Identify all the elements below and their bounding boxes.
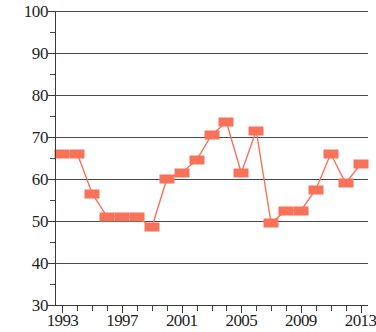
y-axis-tick-label: 70 xyxy=(4,129,48,146)
x-axis-tick-minor xyxy=(212,306,213,311)
data-point-marker xyxy=(264,219,279,228)
data-point-marker xyxy=(353,160,368,169)
y-axis-tick-label: 40 xyxy=(4,255,48,272)
data-point-marker xyxy=(129,212,144,221)
y-axis-tick-label: 80 xyxy=(4,87,48,104)
y-axis xyxy=(55,11,56,305)
x-axis-tick-minor xyxy=(331,306,332,311)
data-point-marker xyxy=(70,149,85,158)
data-point-marker xyxy=(308,185,323,194)
x-axis-tick-label: 2001 xyxy=(166,312,198,329)
x-axis-tick-label: 2005 xyxy=(225,312,257,329)
data-point-marker xyxy=(115,212,130,221)
x-axis-tick-label: 1993 xyxy=(47,312,79,329)
y-axis-tick-label: 100 xyxy=(4,3,48,20)
data-point-marker xyxy=(293,206,308,215)
plot-area xyxy=(55,11,368,305)
data-point-marker xyxy=(100,212,115,221)
y-axis-tick-label: 60 xyxy=(4,171,48,188)
y-axis-tick-label: 50 xyxy=(4,213,48,230)
x-axis-tick-label: 1997 xyxy=(106,312,138,329)
x-axis-tick-label: 2013 xyxy=(345,312,376,329)
data-point-marker xyxy=(234,168,249,177)
data-point-marker xyxy=(338,179,353,188)
y-axis-tick-label: 90 xyxy=(4,45,48,62)
data-point-marker xyxy=(204,130,219,139)
x-axis-tick-label: 2009 xyxy=(285,312,317,329)
x-axis-tick-minor xyxy=(152,306,153,311)
data-point-marker xyxy=(323,149,338,158)
data-point-marker xyxy=(189,156,204,165)
data-point-marker xyxy=(174,168,189,177)
y-axis-tick-label: 30 xyxy=(4,297,48,314)
data-point-marker xyxy=(85,189,100,198)
data-point-marker xyxy=(249,126,264,135)
x-axis-tick-minor xyxy=(92,306,93,311)
data-point-marker xyxy=(219,118,234,127)
series-line xyxy=(55,11,368,305)
data-point-marker xyxy=(144,223,159,232)
data-point-marker xyxy=(279,206,294,215)
data-point-marker xyxy=(55,149,70,158)
x-axis-tick-minor xyxy=(271,306,272,311)
data-point-marker xyxy=(159,175,174,184)
